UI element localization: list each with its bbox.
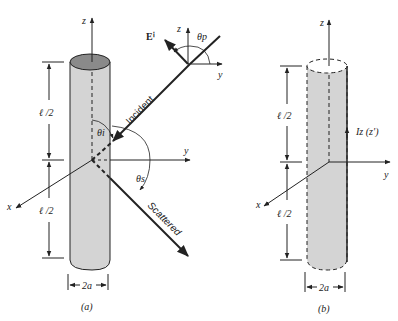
figure-b: z y x Iz (z′) ℓ /2 ℓ /2 2a (b) (255, 17, 390, 315)
z-axis-label-b: z (319, 17, 324, 28)
scattered-ray (110, 178, 188, 256)
x-axis-label-b: x (255, 199, 261, 210)
figure-a: z y x Incident Scattered θi θs z y Eⁱ θp (6, 15, 223, 313)
incident-label: Incident (124, 93, 156, 126)
e-field-vector (165, 40, 188, 64)
inset-z-label: z (176, 23, 181, 34)
y-axis-label: y (183, 145, 189, 156)
cylinder-a-body (70, 62, 110, 270)
theta-i-label: θi (97, 127, 105, 138)
caption-a: (a) (81, 301, 93, 313)
half-length-bottom-label-b: ℓ /2 (277, 208, 291, 219)
half-length-top-label-b: ℓ /2 (277, 110, 291, 121)
z-axis-label: z (81, 15, 86, 26)
cylinder-b-body (307, 66, 347, 270)
e-field-label: Eⁱ (146, 31, 155, 42)
y-axis-label-b: y (383, 169, 389, 180)
cylinder-a-top (70, 54, 110, 70)
theta-s-label: θs (136, 173, 145, 184)
x-axis-label: x (6, 201, 12, 212)
caption-b: (b) (318, 303, 330, 315)
diameter-label-b: 2a (319, 282, 329, 293)
cylinder-b-top (307, 59, 347, 73)
theta-p-label: θp (197, 31, 207, 42)
half-length-top-label: ℓ /2 (39, 107, 53, 118)
half-length-bottom-label: ℓ /2 (39, 205, 53, 216)
diameter-label: 2a (82, 280, 92, 291)
diagram-canvas: z y x Incident Scattered θi θs z y Eⁱ θp (0, 0, 398, 321)
current-label: Iz (z′) (355, 126, 379, 138)
inset-y-label: y (217, 69, 223, 80)
